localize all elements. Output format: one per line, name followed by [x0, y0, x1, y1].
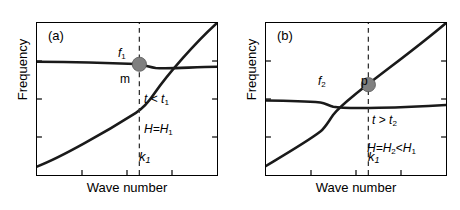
y-ticks-b: [266, 61, 271, 137]
magnon-branch-b: [266, 100, 446, 107]
annotation-field-b-rel: <: [396, 141, 403, 155]
y-ticks-a: [37, 61, 42, 137]
annotation-time-a-rel: <: [147, 92, 161, 106]
marker-label-f2-sub: 2: [321, 80, 325, 89]
x-ticks-a: [82, 170, 172, 175]
x-axis-label-a: Wave number: [36, 180, 218, 195]
annotation-time-b: t > t2: [372, 113, 397, 127]
k1-label-b-sub: 1: [375, 155, 380, 165]
y-ticks-right-a: [212, 61, 217, 137]
panel-b: Frequency Wave number: [230, 0, 460, 210]
k1-label-b-base: k: [368, 149, 375, 164]
plot-curves-a: [37, 23, 217, 175]
panel-letter-a: (a): [48, 28, 64, 43]
panel-a: Frequency Wave number: [0, 0, 230, 210]
magnon-branch-a: [37, 62, 217, 68]
plot-frame-b: [265, 22, 447, 176]
dispersion-figure: Frequency Wave number: [0, 0, 460, 210]
marker-label-f2: f2: [318, 74, 326, 88]
annotation-time-b-rel: >: [375, 113, 389, 127]
k1-label-a-base: k: [139, 149, 146, 164]
marker-mode-label-p: p: [361, 74, 368, 88]
annotation-field-a-sub: 1: [168, 128, 172, 137]
k1-label-a: k1: [139, 149, 151, 164]
phonon-branch-b: [266, 23, 446, 166]
plot-frame-a: [36, 22, 218, 176]
x-ticks-b: [311, 170, 401, 175]
x-axis-label-b: Wave number: [265, 180, 447, 195]
y-axis-label-b: Frequency: [244, 10, 259, 130]
y-axis-label-a: Frequency: [15, 10, 30, 130]
annotation-field-a: H=H1: [144, 122, 173, 136]
annotation-time-a-sub: 1: [164, 98, 168, 107]
marker-label-f1: f1: [118, 46, 126, 60]
annotation-field-a-base: H=H: [144, 122, 168, 136]
phonon-branch-a: [37, 23, 217, 167]
plot-curves-b: [266, 23, 446, 175]
panel-letter-b: (b): [277, 28, 293, 43]
k1-label-b: k1: [368, 149, 380, 164]
k1-label-a-sub: 1: [146, 155, 151, 165]
marker-f1: [132, 57, 146, 71]
marker-mode-label-m: m: [120, 72, 130, 86]
annotation-field-b-sub: 2: [391, 147, 395, 156]
marker-label-f1-sub: 1: [121, 52, 125, 61]
annotation-field-b-tail-sub: 1: [411, 147, 415, 156]
annotation-time-a: t < t1: [144, 92, 169, 106]
annotation-time-b-sub: 2: [392, 119, 396, 128]
y-ticks-right-b: [441, 61, 446, 137]
